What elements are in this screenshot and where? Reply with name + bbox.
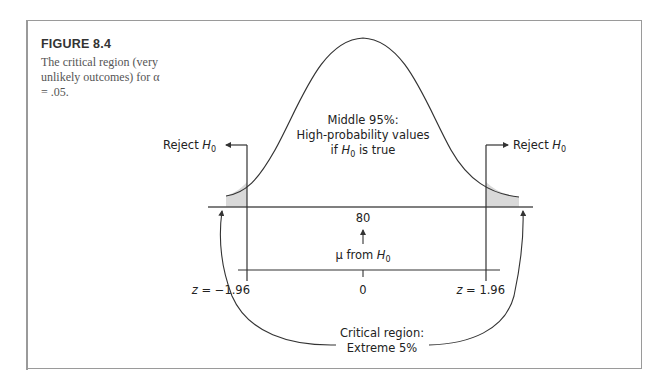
critical-region-label: Critical region: (340, 326, 424, 340)
mean-value-label: 80 (356, 211, 371, 225)
z-center-label: 0 (359, 283, 366, 297)
middle-95-label: Middle 95%: (327, 113, 398, 127)
high-probability-label: High-probability values (297, 128, 430, 142)
reject-left-label: Reject H0 (163, 138, 216, 154)
z-left-label: z = −1.96 (191, 283, 250, 297)
normal-distribution-diagram: Reject H0 Reject H0 Middle 95%: High-pro… (0, 0, 670, 391)
left-tail-shade (226, 182, 247, 207)
z-right-label: z = 1.96 (455, 283, 505, 297)
if-h0-true-label: if H0 is true (331, 143, 396, 159)
critical-left-curve-arrow (220, 211, 336, 345)
right-tail-shade (486, 182, 519, 207)
mu-from-h0-label: μ from H0 (335, 248, 390, 264)
extreme-5-label: Extreme 5% (347, 341, 417, 355)
reject-right-label: Reject H0 (513, 138, 566, 154)
critical-right-curve-arrow (429, 211, 523, 345)
